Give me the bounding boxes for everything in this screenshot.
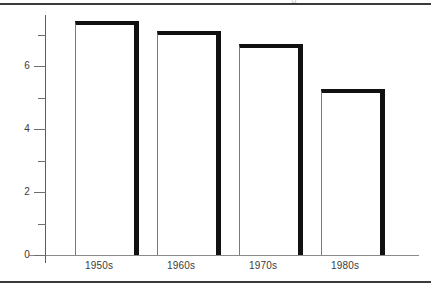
- x-tick-label: 1970s: [222, 260, 304, 272]
- x-tick-label: 1960s: [140, 260, 222, 272]
- x-axis-line: [29, 255, 419, 256]
- plot-area: 0246 1950s1960s1970s1980s: [0, 8, 431, 280]
- y-tick-major: [34, 66, 46, 67]
- y-tick-label-text: 2: [2, 187, 30, 197]
- bar: [239, 44, 303, 255]
- y-tick-label: 6: [0, 61, 30, 71]
- y-tick-major: [34, 255, 46, 256]
- y-tick-label-text: 6: [2, 61, 30, 71]
- bottom-rule: [0, 281, 431, 283]
- x-tick-label: 1980s: [304, 260, 386, 272]
- top-rule: [0, 3, 431, 5]
- bar: [321, 89, 385, 255]
- y-tick-label-text: 0: [2, 250, 30, 260]
- x-tick-label: 1950s: [58, 260, 140, 272]
- y-tick-minor: [38, 224, 46, 225]
- clipped-glyph: g: [286, 0, 302, 3]
- y-tick-minor: [38, 35, 46, 36]
- y-tick-label: 0: [0, 250, 30, 260]
- bar: [75, 21, 139, 255]
- y-axis-line: [45, 15, 46, 263]
- y-tick-minor: [38, 98, 46, 99]
- figure: g 0246 1950s1960s1970s1980s: [0, 0, 431, 292]
- y-tick-label-text: 4: [2, 124, 30, 134]
- y-tick-label: 4: [0, 124, 30, 134]
- y-tick-minor: [38, 161, 46, 162]
- bar: [157, 31, 221, 255]
- y-tick-major: [34, 129, 46, 130]
- y-tick-label: 2: [0, 187, 30, 197]
- y-tick-major: [34, 192, 46, 193]
